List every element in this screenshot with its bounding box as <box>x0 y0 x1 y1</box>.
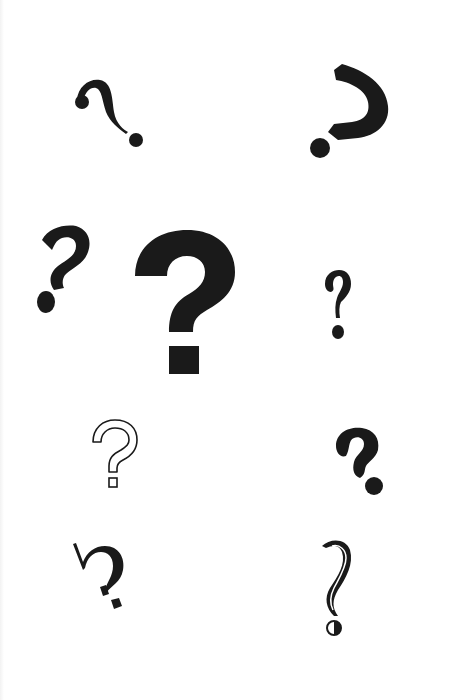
rotated-bold-question-mark-icon <box>306 62 396 162</box>
outline-question-mark-icon <box>91 418 139 490</box>
italic-bold-question-mark-icon <box>34 222 94 316</box>
serif-curl-question-mark-icon <box>72 68 152 148</box>
page-edge-shadow <box>0 0 4 700</box>
small-condensed-question-mark-icon <box>323 270 353 340</box>
decorative-inline-question-mark-icon <box>316 538 356 638</box>
serif-slab-question-mark-icon <box>73 542 135 612</box>
large-bold-question-mark-icon <box>133 228 237 376</box>
brush-question-mark-icon <box>334 426 386 496</box>
